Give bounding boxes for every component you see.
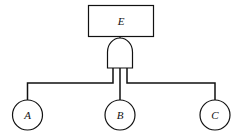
- top-event-box: E: [89, 6, 154, 37]
- svg-text:C: C: [211, 109, 219, 121]
- top-event-label: E: [117, 15, 125, 27]
- basic-event-a: A: [13, 100, 43, 130]
- basic-event-c: C: [200, 100, 230, 130]
- svg-text:A: A: [23, 109, 31, 121]
- and-gate-icon: [107, 38, 132, 68]
- svg-text:B: B: [117, 109, 124, 121]
- fault-tree-diagram: E A B C: [0, 0, 242, 138]
- basic-event-b: B: [105, 100, 135, 130]
- connector-lines: [28, 68, 216, 100]
